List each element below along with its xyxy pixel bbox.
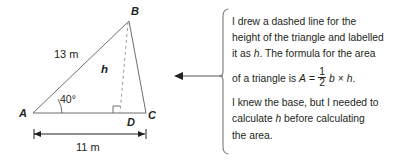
callout-line-5-rest: before calculating <box>281 113 365 124</box>
triangle-side-BC <box>129 21 146 113</box>
formula-prefix: of a triangle is <box>232 71 296 86</box>
callout-line-1: I drew a dashed line for the <box>232 14 408 30</box>
callout-line-3-text: it as <box>232 48 254 59</box>
dimension-arrowhead-left <box>34 131 41 137</box>
callout-line-3-rest: . The formula for the area <box>259 48 375 59</box>
height-dashed-line <box>120 22 128 113</box>
vertex-label-b: B <box>131 6 139 17</box>
formula-times: × <box>338 71 344 86</box>
side-label-base: 11 m <box>76 142 100 153</box>
pointer-arrow-head <box>174 72 183 80</box>
callout-text-block: I drew a dashed line for the height of t… <box>232 14 408 144</box>
callout-line-5: calculate h before calculating <box>232 111 408 127</box>
formula-equals: = <box>309 71 315 86</box>
height-label-h: h <box>101 64 108 76</box>
callout-bracket <box>219 9 228 154</box>
figure-root: B A C D 13 m 11 m 40° h I drew a dashed … <box>0 0 413 166</box>
vertex-label-d: D <box>127 117 135 128</box>
triangle-side-AB <box>33 21 129 113</box>
fraction-denominator: 2 <box>318 78 326 88</box>
vertex-label-c: C <box>148 110 156 121</box>
right-angle-marker <box>113 106 120 113</box>
vertex-label-a: A <box>19 108 27 119</box>
angle-label-40deg: 40° <box>60 94 76 105</box>
side-label-slant: 13 m <box>54 49 78 60</box>
callout-line-3: it as h. The formula for the area <box>232 46 408 62</box>
fraction-numerator: 1 <box>318 67 326 77</box>
formula-fraction-one-half: 1 2 <box>318 67 326 89</box>
dimension-arrowhead-right <box>138 131 145 137</box>
formula-var-b: b <box>329 71 335 86</box>
formula-period: . <box>352 71 355 86</box>
formula-var-A: A <box>299 71 306 86</box>
callout-formula: of a triangle is A = 1 2 b × h. <box>232 68 408 90</box>
callout-line-5-text: calculate <box>232 113 276 124</box>
callout-line-4: I knew the base, but I needed to <box>232 95 408 111</box>
callout-line-6: the area. <box>232 128 408 144</box>
callout-line-2: height of the triangle and labelled <box>232 30 408 46</box>
